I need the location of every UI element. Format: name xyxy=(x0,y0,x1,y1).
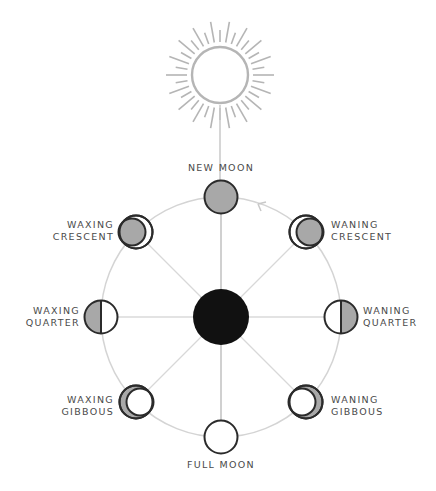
waning-crescent-phase xyxy=(290,216,324,249)
label-full-moon: FULL MOON xyxy=(187,459,255,471)
label-new-moon: NEW MOON xyxy=(188,162,254,174)
waxing-gibbous-phase xyxy=(120,386,154,419)
label-line: WANING xyxy=(331,219,392,231)
label-line: GIBBOUS xyxy=(331,406,384,418)
earth-disc xyxy=(193,289,249,345)
label-waning-quarter: WANING QUARTER xyxy=(363,305,417,329)
label-line: CRESCENT xyxy=(331,231,392,243)
waxing-quarter-phase xyxy=(85,301,118,334)
label-waning-gibbous: WANING GIBBOUS xyxy=(331,394,384,418)
label-waning-crescent: WANING CRESCENT xyxy=(331,219,392,243)
new-moon-phase xyxy=(205,181,238,214)
waning-gibbous-phase xyxy=(289,386,323,419)
label-line: CRESCENT xyxy=(53,231,114,243)
label-line: QUARTER xyxy=(26,317,80,329)
label-line: GIBBOUS xyxy=(61,406,114,418)
label-line: WANING xyxy=(331,394,384,406)
label-line: WAXING xyxy=(53,219,114,231)
label-line: WAXING xyxy=(61,394,114,406)
label-waxing-gibbous: WAXING GIBBOUS xyxy=(61,394,114,418)
label-line: WAXING xyxy=(26,305,80,317)
label-line: QUARTER xyxy=(363,317,417,329)
waxing-crescent-phase xyxy=(119,216,153,249)
orbit-direction-arrow xyxy=(258,202,266,211)
label-waxing-crescent: WAXING CRESCENT xyxy=(53,219,114,243)
label-line: WANING xyxy=(363,305,417,317)
waning-quarter-phase xyxy=(325,301,358,334)
full-moon-phase xyxy=(205,421,238,454)
label-waxing-quarter: WAXING QUARTER xyxy=(26,305,80,329)
